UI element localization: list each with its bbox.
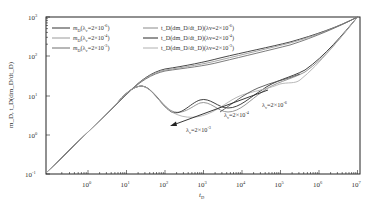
- legend-label-mD-2e-4: mD(λv=2×10-4): [73, 33, 109, 43]
- legend-label-deriv-2e-4: t_D(dm_D/dt_D)(λv=2×10-4): [161, 33, 234, 42]
- x-axis-title: tD: [199, 191, 205, 200]
- x-axis-ticks: [62, 170, 358, 174]
- annotation-lambda-2e-3: λv=2×10-3: [186, 125, 211, 135]
- svg-text:102: 102: [159, 180, 168, 189]
- y-tick-labels: 103 102 101 100 10-1: [25, 13, 38, 179]
- svg-text:101: 101: [28, 92, 37, 101]
- legend-label-mD-2e-6: mD(λv=2×10-6): [73, 23, 109, 33]
- svg-text:103: 103: [28, 13, 38, 22]
- annotation-lambda-2e-4: λv=2×10-4: [224, 110, 250, 120]
- legend-label-mD-2e-3: mD(λv=2×10-3): [73, 43, 109, 53]
- svg-text:103: 103: [198, 180, 208, 189]
- svg-text:100: 100: [28, 131, 38, 140]
- svg-text:107: 107: [352, 180, 362, 189]
- legend-label-deriv-2e-3: t_D(dm_D/dt_D)(λv=2×10-3): [161, 43, 234, 52]
- svg-text:10-1: 10-1: [25, 170, 36, 179]
- svg-text:101: 101: [121, 180, 130, 189]
- svg-text:102: 102: [28, 52, 37, 61]
- annotation-lambda-2e-6: λv=2×10-6: [262, 100, 287, 110]
- svg-text:100: 100: [82, 180, 92, 189]
- chart-canvas: 103 102 101 100 10-1 100 101 102 103 104…: [0, 0, 373, 210]
- legend: mD(λv=2×10-6) mD(λv=2×10-4) mD(λv=2×10-3…: [52, 23, 234, 53]
- svg-text:106: 106: [313, 180, 323, 189]
- svg-text:104: 104: [236, 180, 246, 189]
- x-tick-labels: 100 101 102 103 104 105 106 107: [82, 180, 362, 189]
- legend-label-deriv-2e-6: t_D(dm_D/dt_D)(λv=2×10-6): [161, 23, 234, 32]
- lambda-arrow: [170, 90, 268, 126]
- svg-text:105: 105: [275, 180, 285, 189]
- y-axis-title: m_D, t_D(dm_D/dt_D): [7, 61, 15, 128]
- y-axis-ticks: [46, 17, 50, 174]
